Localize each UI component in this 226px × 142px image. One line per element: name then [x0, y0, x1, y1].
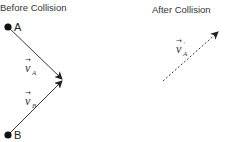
point-b-label: B [14, 129, 21, 141]
velocity-label-b: → v B [25, 89, 37, 110]
velocity-vector-a-after [163, 32, 218, 81]
point-a-label: A [14, 21, 22, 33]
vector-subscript: A [31, 69, 37, 77]
velocity-label-a: → v A [25, 56, 37, 77]
collision-diagram: A B → v A → v B → v ' A [0, 0, 226, 142]
vector-subscript: B [32, 102, 37, 110]
vector-subscript: A [182, 50, 188, 58]
point-a: A [4, 21, 22, 33]
point-b-dot [4, 131, 11, 138]
vector-symbol: v [176, 42, 182, 56]
vector-symbol: v [25, 94, 31, 108]
vector-symbol: v [25, 61, 31, 75]
velocity-label-a-after: → v ' A [176, 37, 188, 58]
point-a-dot [4, 23, 11, 30]
vector-prime: ' [183, 40, 185, 48]
point-b: B [4, 129, 21, 141]
